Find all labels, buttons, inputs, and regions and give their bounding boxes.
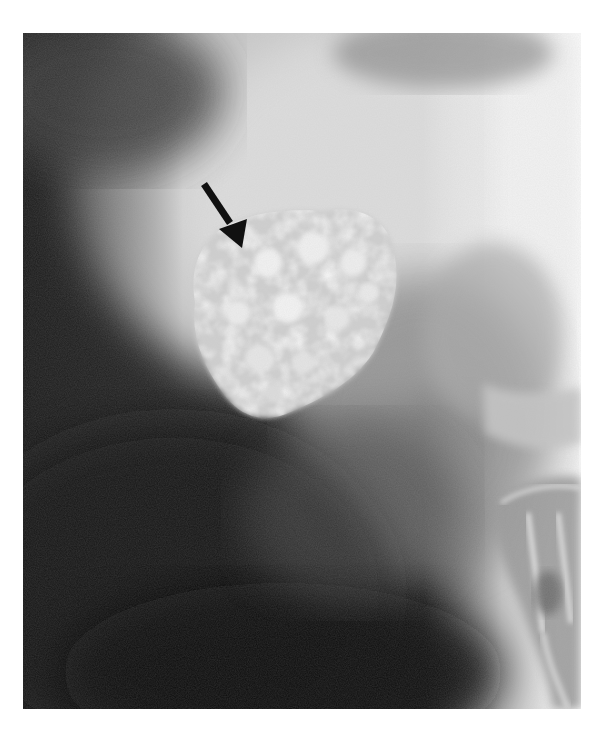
xray-image	[23, 33, 581, 709]
xray-rendering	[23, 33, 581, 709]
